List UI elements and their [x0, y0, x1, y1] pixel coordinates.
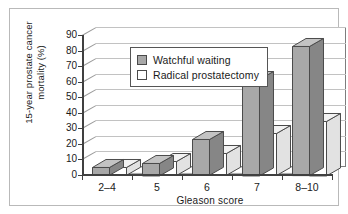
x-axis-tick: [132, 176, 133, 180]
y-axis-tick-label: 30: [66, 123, 77, 133]
x-axis-tick: [182, 176, 183, 180]
y-axis-tick: [78, 159, 83, 160]
y-axis-tick: [78, 97, 83, 98]
legend-swatch-radical-prostatectomy: [137, 70, 147, 80]
x-axis-line: [82, 174, 333, 176]
y-axis-tick: [78, 51, 83, 52]
y-axis-tick: [78, 82, 83, 83]
x-axis-tick-label: 7: [254, 181, 260, 193]
x-axis-tick: [82, 176, 83, 180]
x-axis-tick: [332, 176, 333, 180]
y-axis-tick-label: 20: [66, 139, 77, 149]
x-axis-title: Gleason score: [70, 195, 348, 206]
y-axis-tick: [78, 66, 83, 67]
legend-label: Radical prostatectomy: [153, 69, 259, 81]
x-axis-tick-label: 6: [204, 181, 210, 193]
x-axis-tick-label: 8–10: [295, 181, 318, 193]
y-axis-line: [82, 35, 84, 175]
y-axis-tick-label: 50: [66, 92, 77, 102]
x-axis-tick-label: 5: [154, 181, 160, 193]
y-axis-tick: [78, 113, 83, 114]
gridline: [96, 27, 346, 28]
y-axis-tick-label: 10: [66, 154, 77, 164]
legend: Watchful waiting Radical prostatectomy: [130, 47, 268, 87]
y-axis-tick: [78, 144, 83, 145]
y-axis-tick: [78, 35, 83, 36]
bar: [292, 38, 325, 177]
figure: 15-year prostate cancer mortality (%) Gl…: [0, 0, 348, 214]
y-axis-tick-label: 70: [66, 61, 77, 71]
legend-item: Radical prostatectomy: [137, 67, 259, 82]
y-axis-tick-label: 60: [66, 77, 77, 87]
x-axis-tick: [282, 176, 283, 180]
x-axis-tick: [232, 176, 233, 180]
figure-frame: 15-year prostate cancer mortality (%) Gl…: [9, 8, 339, 206]
y-axis-tick-label: 90: [66, 30, 77, 40]
y-axis-title: 15-year prostate cancer mortality (%): [23, 3, 46, 143]
legend-item: Watchful waiting: [137, 52, 259, 67]
x-axis-tick-label: 2–4: [98, 181, 116, 193]
bar: [192, 131, 225, 177]
legend-swatch-watchful-waiting: [137, 55, 147, 65]
y-axis-tick-label: 80: [66, 46, 77, 56]
legend-label: Watchful waiting: [153, 54, 231, 66]
plot-area: 0102030405060708090 2–45678–10 Watchful …: [82, 35, 332, 175]
y-axis-tick-label: 40: [66, 108, 77, 118]
y-axis-tick: [78, 128, 83, 129]
y-axis-tick-label: 0: [71, 170, 77, 180]
